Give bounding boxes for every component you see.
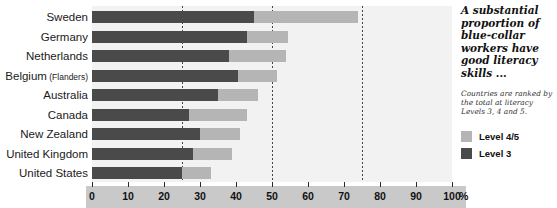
bar-segment-level3 (92, 31, 247, 43)
bar-segment-level3 (92, 11, 254, 23)
x-tick-mark (92, 182, 93, 187)
bar-segment-level3 (92, 50, 229, 62)
x-tick-mark (200, 182, 201, 187)
bar-row (92, 109, 452, 121)
legend-item: Level 4/5 (461, 131, 557, 142)
x-tick-mark (236, 182, 237, 187)
x-tick-mark (344, 182, 345, 187)
x-tick-mark (128, 182, 129, 187)
bar-segment-level45 (218, 89, 258, 101)
bar-row (92, 70, 452, 82)
chart-note: Countries are ranked by the total at lit… (461, 89, 557, 117)
bar-row (92, 31, 452, 43)
bar-segment-level45 (200, 128, 240, 140)
legend-label: Level 4/5 (479, 131, 519, 142)
category-label-main: Germany (41, 31, 88, 43)
category-label-main: United Kingdom (6, 148, 88, 160)
category-label: Germany (0, 31, 88, 43)
category-axis-labels: SwedenGermanyNetherlandsBelgium (Flander… (0, 6, 88, 182)
bar-row (92, 50, 452, 62)
bar-segment-level3 (92, 148, 193, 160)
category-label-main: Canada (48, 109, 88, 121)
legend-swatch (461, 131, 472, 142)
bar-row (92, 128, 452, 140)
category-label-main: Belgium (5, 70, 47, 82)
category-label: United Kingdom (0, 148, 88, 160)
bar-segment-level3 (92, 128, 200, 140)
category-label: Sweden (0, 11, 88, 23)
x-tick-label: 90 (401, 190, 431, 202)
x-tick-label: 30 (185, 190, 215, 202)
legend-item: Level 3 (461, 148, 557, 159)
bar-row (92, 11, 452, 23)
x-axis: % 0102030405060708090100 (86, 186, 466, 208)
bar-segment-level45 (229, 50, 287, 62)
category-label-main: New Zealand (20, 128, 88, 140)
category-label: Australia (0, 89, 88, 101)
bar-segment-level45 (189, 109, 247, 121)
category-label-main: Sweden (46, 11, 88, 23)
literacy-bar-chart-figure: SwedenGermanyNetherlandsBelgium (Flander… (0, 0, 557, 208)
x-tick-mark (308, 182, 309, 187)
category-label: Netherlands (0, 50, 88, 62)
bar-row (92, 148, 452, 160)
x-tick-mark (380, 182, 381, 187)
category-label-main: Netherlands (26, 50, 88, 62)
x-tick-label: 50 (257, 190, 287, 202)
legend-label: Level 3 (479, 148, 511, 159)
bar-row (92, 167, 452, 179)
x-tick-mark (272, 182, 273, 187)
x-tick-label: 20 (149, 190, 179, 202)
bar-segment-level45 (182, 167, 211, 179)
category-label-main: Australia (43, 89, 88, 101)
right-panel: A substantial proportion of blue-collar … (461, 4, 557, 204)
category-label: Belgium (Flanders) (0, 70, 88, 83)
x-tick-label: 10 (113, 190, 143, 202)
x-tick-mark (164, 182, 165, 187)
x-tick-mark (416, 182, 417, 187)
category-label: United States (0, 167, 88, 179)
legend-swatch (461, 148, 472, 159)
category-label: Canada (0, 109, 88, 121)
bar-segment-level45 (247, 31, 288, 43)
x-tick-label: 80 (365, 190, 395, 202)
category-label-main: United States (19, 167, 88, 179)
x-tick-label: 0 (77, 190, 107, 202)
x-tick-mark (452, 182, 453, 187)
x-tick-label: 40 (221, 190, 251, 202)
bar-segment-level45 (254, 11, 358, 23)
bar-segment-level3 (92, 109, 189, 121)
bar-segment-level45 (193, 148, 233, 160)
x-tick-label: 60 (293, 190, 323, 202)
category-label-sub: (Flanders) (47, 72, 88, 82)
category-label: New Zealand (0, 128, 88, 140)
bar-segment-level3 (92, 89, 218, 101)
bar-segment-level3 (92, 167, 182, 179)
x-tick-label: 70 (329, 190, 359, 202)
bar-row (92, 89, 452, 101)
legend: Level 4/5Level 3 (461, 131, 557, 159)
chart-headline: A substantial proportion of blue-collar … (461, 4, 557, 80)
bar-segment-level3 (92, 70, 238, 82)
bar-segment-level45 (238, 70, 278, 82)
